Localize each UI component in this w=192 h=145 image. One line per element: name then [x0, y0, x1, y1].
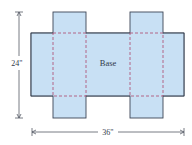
base-label: Base [100, 58, 117, 68]
height-label: 24" [11, 59, 22, 68]
width-label: 36" [102, 128, 113, 137]
box-net-diagram: Base 24" 36" [0, 0, 192, 145]
